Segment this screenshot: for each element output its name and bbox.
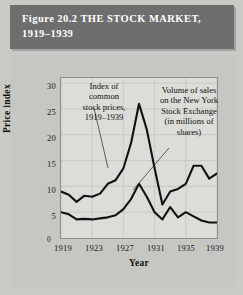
x-tick-1923: 1923	[77, 243, 111, 253]
x-tick-1931: 1931	[139, 243, 173, 253]
annotation-index-note: Index of common stock prices, 1919–1939	[68, 81, 140, 123]
x-tick-1939: 1939	[198, 243, 232, 253]
x-axis-label: Year	[60, 258, 218, 268]
annotation-volume-note: Volume of sales on the New York Stock Ex…	[148, 85, 230, 137]
y-axis-label: Price index	[2, 84, 12, 133]
figure-title-banner: Figure 20.2 THE STOCK MARKET, 1919–1939	[10, 5, 234, 49]
page-title: Figure 20.2 THE STOCK MARKET, 1919–1939	[22, 11, 224, 41]
y-tick-30: 30	[34, 81, 56, 91]
chart-area: Price index 30 25 20 15 10 5 0 Index of …	[10, 55, 234, 287]
figure-stock-market: Figure 20.2 THE STOCK MARKET, 1919–1939 …	[0, 0, 243, 295]
y-tick-15: 15	[34, 159, 56, 169]
y-tick-25: 25	[34, 107, 56, 117]
y-tick-5: 5	[34, 211, 56, 221]
y-axis-ticks: 30 25 20 15 10 5	[30, 77, 56, 247]
y-tick-10: 10	[34, 185, 56, 195]
y-tick-20: 20	[34, 133, 56, 143]
x-axis-ticks: 1919 1923 1927 1931 1935 1939	[60, 243, 218, 257]
x-tick-1919: 1919	[46, 243, 80, 253]
line-series-volume	[61, 184, 217, 223]
x-tick-1927: 1927	[108, 243, 142, 253]
